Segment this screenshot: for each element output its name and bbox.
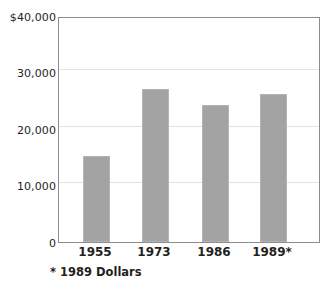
y-tick-label-20000: 20,000: [2, 125, 56, 136]
y-tick-label-30000: 30,000: [2, 68, 56, 79]
x-tick-label-1986: 1986: [184, 245, 244, 259]
x-tick-label-1955: 1955: [65, 245, 125, 259]
bar-1955: [83, 156, 110, 242]
bar-1989: [260, 94, 287, 242]
y-tick-label-10000: 10,000: [2, 181, 56, 192]
y-tick-label-0: 0: [2, 238, 56, 249]
chart-footnote: * 1989 Dollars: [50, 265, 142, 279]
bar-1986: [202, 105, 229, 242]
plot-area: [58, 17, 320, 243]
bars-layer: [59, 18, 319, 242]
bar-chart-figure: $40,000 30,000 20,000 10,000 0 1955 1973…: [0, 0, 333, 290]
y-tick-label-40000: $40,000: [2, 12, 56, 23]
y-axis: $40,000 30,000 20,000 10,000 0: [0, 0, 56, 290]
x-axis: 1955 1973 1986 1989*: [58, 245, 320, 263]
x-tick-label-1973: 1973: [124, 245, 184, 259]
bar-1973: [142, 89, 169, 242]
x-tick-label-1989: 1989*: [242, 245, 302, 259]
